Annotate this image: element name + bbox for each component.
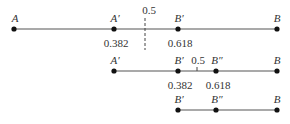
point-B [274, 68, 279, 73]
point-B-double-prime [213, 107, 218, 112]
label-B-prime: B′ [174, 13, 183, 24]
label-B: B [274, 13, 281, 24]
point-A [11, 26, 16, 31]
label-B-double-prime: B″ [211, 55, 222, 66]
value-0382: 0.382 [168, 80, 193, 91]
label-A-prime: A′ [110, 55, 119, 66]
point-A-prime [111, 26, 116, 31]
label-B-prime: B′ [174, 55, 183, 66]
label-A-prime: A′ [110, 13, 119, 24]
label-B-prime: B′ [174, 94, 183, 105]
label-B: B [274, 94, 281, 105]
point-A-prime [111, 68, 116, 73]
point-B-prime [175, 107, 180, 112]
point-B-prime [175, 26, 180, 31]
point-B [274, 26, 279, 31]
point-B-double-prime [213, 68, 218, 73]
value-0382: 0.382 [104, 38, 129, 49]
label-midpoint: 0.5 [191, 55, 205, 66]
label-B: B [274, 55, 281, 66]
label-A: A [12, 13, 19, 24]
value-0618: 0.618 [168, 38, 193, 49]
label-midpoint: 0.5 [142, 5, 156, 16]
point-B-prime [175, 68, 180, 73]
diagram-canvas [0, 0, 290, 124]
value-0618: 0.618 [206, 80, 231, 91]
point-B [274, 107, 279, 112]
label-B-double-prime: B″ [211, 94, 222, 105]
